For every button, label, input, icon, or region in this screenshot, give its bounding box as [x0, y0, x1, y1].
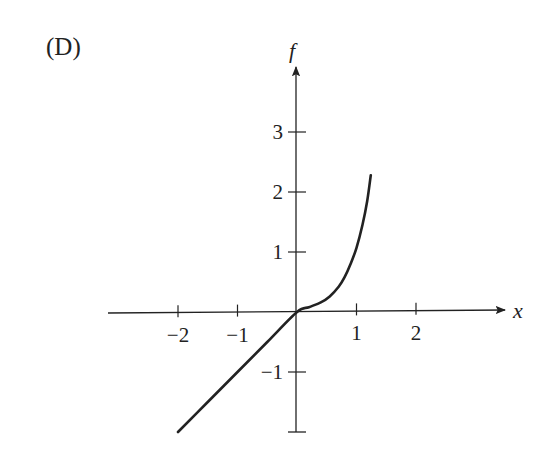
function-plot: xf −2−112−1123	[0, 0, 546, 460]
x-tick-label: −1	[226, 323, 248, 347]
x-axis-label: x	[512, 298, 523, 323]
y-tick-label: 2	[273, 180, 284, 204]
series-line	[178, 175, 371, 432]
y-tick-label: 3	[273, 120, 284, 144]
ticks: −2−112−1123	[167, 120, 421, 384]
x-tick-label: 2	[411, 321, 422, 345]
y-tick-label: −1	[261, 360, 283, 384]
x-tick-label: 1	[351, 321, 362, 345]
y-axis-label: f	[289, 38, 298, 63]
y-tick-label: 1	[273, 240, 284, 264]
x-tick-label: −2	[167, 323, 189, 347]
x-axis	[108, 310, 505, 313]
data-curve	[178, 175, 371, 432]
axes: xf	[108, 38, 523, 432]
